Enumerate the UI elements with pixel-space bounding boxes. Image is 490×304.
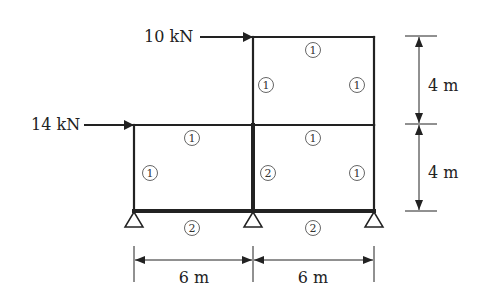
member-number: 1 bbox=[310, 44, 317, 57]
dimension-label: 4 m bbox=[428, 76, 458, 95]
pin-support-icon bbox=[125, 212, 143, 227]
supports bbox=[125, 212, 383, 227]
member-number: 2 bbox=[310, 222, 317, 235]
vertical-dimensions bbox=[405, 36, 437, 211]
pin-support-icon bbox=[244, 212, 262, 227]
dimension-label: 6 m bbox=[298, 268, 328, 287]
member-number: 2 bbox=[189, 222, 196, 235]
horizontal-dimensions bbox=[134, 246, 374, 282]
member-number: 1 bbox=[354, 167, 361, 180]
dimension-label: 6 m bbox=[179, 268, 209, 287]
member-number: 1 bbox=[147, 167, 154, 180]
pin-support-icon bbox=[365, 212, 383, 227]
load-label: 14 kN bbox=[31, 115, 80, 134]
member-number: 2 bbox=[265, 167, 272, 180]
dimension-label: 4 m bbox=[428, 163, 458, 182]
member-number: 1 bbox=[263, 79, 270, 92]
frame-members bbox=[134, 37, 374, 211]
member-number: 1 bbox=[354, 79, 361, 92]
member-number: 1 bbox=[189, 132, 196, 145]
load-10kN: 10 kN bbox=[144, 27, 252, 46]
member-number: 1 bbox=[310, 132, 317, 145]
load-label: 10 kN bbox=[144, 27, 193, 46]
load-14kN: 14 kN bbox=[31, 115, 133, 134]
frame-diagram: 10 kN 14 kN 1 1 1 1 1 1 2 1 2 2 bbox=[0, 0, 490, 304]
